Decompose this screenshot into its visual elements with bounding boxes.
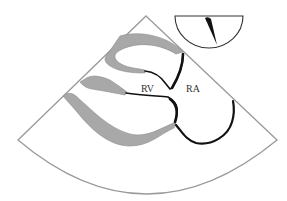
echo-sector-diagram: RV RA — [0, 0, 287, 201]
label-rv: RV — [141, 83, 155, 94]
label-ra: RA — [186, 83, 201, 94]
orientation-inset — [175, 16, 243, 48]
